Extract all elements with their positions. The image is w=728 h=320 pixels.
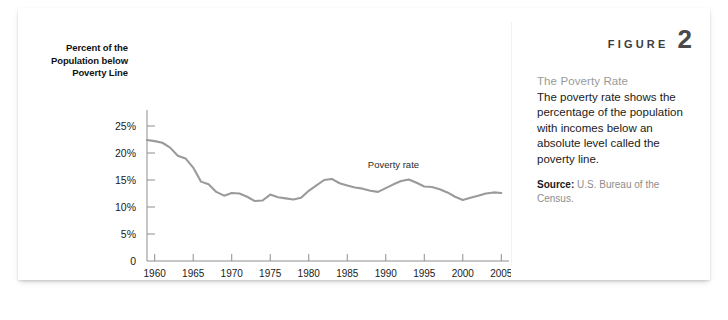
svg-text:1990: 1990 bbox=[375, 268, 398, 279]
x-tick-labels: 1960196519701975198019851990199520002005 bbox=[144, 268, 511, 279]
svg-text:1995: 1995 bbox=[413, 268, 436, 279]
caption-body: The Poverty Rate The poverty rate shows … bbox=[537, 74, 695, 206]
source-block: Source: U.S. Bureau of the Census. bbox=[537, 178, 695, 206]
figure-header: FIGURE 2 bbox=[608, 26, 692, 52]
axis-lines bbox=[147, 110, 509, 261]
svg-text:1970: 1970 bbox=[221, 268, 244, 279]
svg-text:Poverty rate: Poverty rate bbox=[368, 159, 419, 170]
svg-text:5%: 5% bbox=[121, 228, 136, 240]
poverty-rate-line-chart: 05%10%15%20%25% 196019651970197519801985… bbox=[18, 8, 511, 280]
svg-text:0: 0 bbox=[130, 255, 136, 267]
figure-word-label: FIGURE bbox=[608, 38, 669, 50]
svg-text:20%: 20% bbox=[115, 147, 136, 159]
svg-text:1975: 1975 bbox=[259, 268, 282, 279]
panel-divider bbox=[511, 22, 512, 266]
y-tick-labels: 05%10%15%20%25% bbox=[115, 120, 136, 267]
svg-text:10%: 10% bbox=[115, 201, 136, 213]
svg-text:2000: 2000 bbox=[452, 268, 475, 279]
svg-text:15%: 15% bbox=[115, 174, 136, 186]
svg-text:1965: 1965 bbox=[182, 268, 205, 279]
caption-panel: FIGURE 2 The Poverty Rate The poverty ra… bbox=[515, 8, 710, 280]
caption-heading: The Poverty Rate bbox=[537, 74, 695, 89]
series-annotation: Poverty rate bbox=[368, 159, 419, 170]
figure-number: 2 bbox=[678, 26, 692, 52]
svg-text:1985: 1985 bbox=[336, 268, 359, 279]
data-series-poverty-rate bbox=[147, 140, 501, 201]
svg-text:25%: 25% bbox=[115, 120, 136, 132]
chart-region: Percent of the Population below Poverty … bbox=[18, 8, 511, 280]
figure-card: Percent of the Population below Poverty … bbox=[18, 8, 710, 280]
source-label: Source: bbox=[537, 179, 574, 190]
svg-text:1960: 1960 bbox=[144, 268, 167, 279]
svg-text:2005: 2005 bbox=[490, 268, 511, 279]
svg-text:1980: 1980 bbox=[298, 268, 321, 279]
caption-text: The poverty rate shows the percentage of… bbox=[537, 90, 695, 167]
